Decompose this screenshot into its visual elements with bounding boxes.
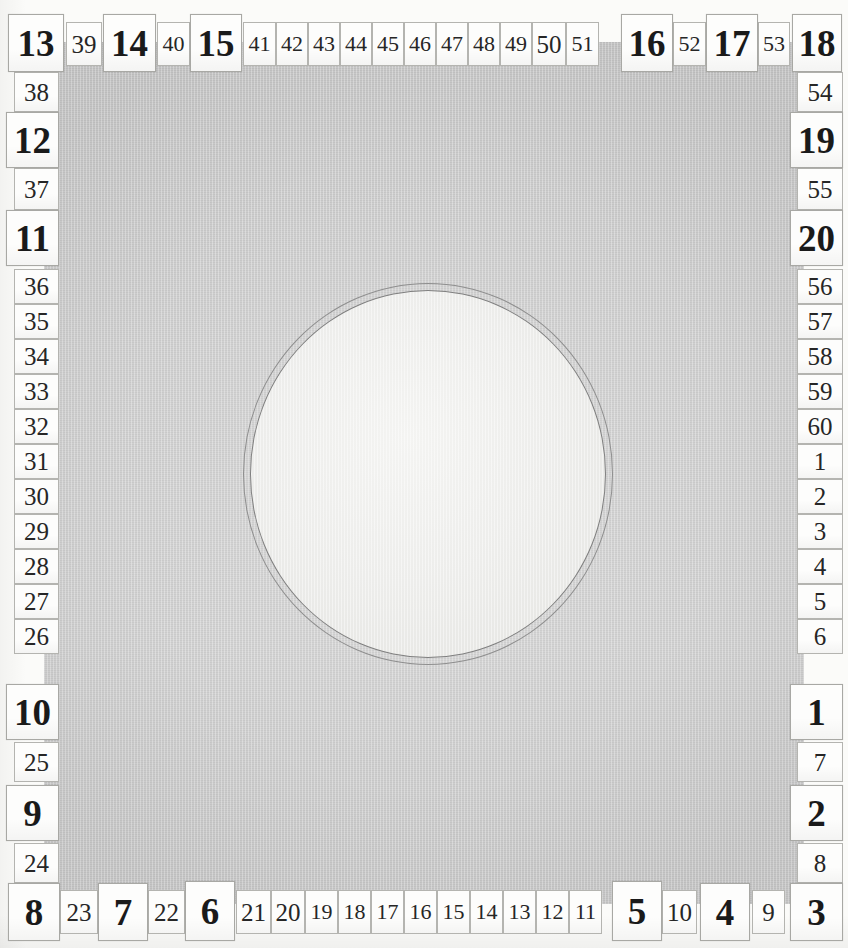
tick-label-minor-bottom-19: 19: [305, 890, 338, 934]
tick-label-major-bottom-6: 6: [185, 881, 235, 941]
tick-label-minor-right-57: 57: [797, 304, 843, 339]
tick-label-minor-top-48: 48: [468, 22, 500, 66]
tick-label-major-bottom-4: 4: [700, 883, 750, 941]
tick-label-minor-bottom-22: 22: [148, 890, 185, 934]
tick-label-minor-left-38: 38: [14, 72, 59, 112]
tick-label-major-right-20: 20: [790, 210, 843, 266]
tick-label-minor-top-43: 43: [308, 22, 340, 66]
tick-label-minor-left-30: 30: [14, 479, 59, 514]
tick-label-minor-top-51: 51: [566, 22, 599, 66]
scale-plate: 1339144015414243444546474849505116521753…: [0, 0, 848, 948]
tick-label-minor-left-36: 36: [14, 269, 59, 304]
tick-label-minor-top-47: 47: [436, 22, 468, 66]
tick-label-major-top-18: 18: [792, 14, 842, 72]
tick-label-minor-bottom-14: 14: [470, 890, 503, 934]
tick-label-minor-left-28: 28: [14, 549, 59, 584]
tick-label-minor-right-56: 56: [797, 269, 843, 304]
tick-label-major-top-13: 13: [8, 14, 64, 72]
tick-label-minor-right-59: 59: [797, 374, 843, 409]
tick-label-major-top-16: 16: [621, 14, 673, 72]
tick-label-minor-bottom-18: 18: [338, 890, 371, 934]
tick-label-minor-top-46: 46: [404, 22, 436, 66]
tick-label-major-right-3: 3: [790, 883, 843, 941]
tick-label-minor-top-41: 41: [243, 22, 276, 66]
tick-label-minor-bottom-12: 12: [536, 890, 569, 934]
tick-label-major-bottom-5: 5: [612, 881, 662, 941]
tick-label-minor-top-53: 53: [758, 22, 790, 66]
tick-label-major-right-2: 2: [790, 785, 843, 841]
tick-label-minor-left-31: 31: [14, 444, 59, 479]
tick-label-minor-bottom-20: 20: [271, 890, 305, 934]
tick-label-minor-bottom-16: 16: [404, 890, 437, 934]
tick-label-minor-right-1: 1: [797, 444, 843, 479]
tick-label-minor-top-40: 40: [157, 22, 190, 66]
tick-label-minor-right-54: 54: [797, 72, 843, 112]
tick-label-minor-bottom-11: 11: [569, 890, 602, 934]
tick-label-major-top-15: 15: [190, 14, 242, 72]
tick-label-minor-left-35: 35: [14, 304, 59, 339]
tick-label-minor-right-8: 8: [797, 843, 843, 883]
tick-label-major-right-19: 19: [790, 112, 843, 168]
tick-label-major-top-14: 14: [103, 14, 156, 72]
tick-label-minor-top-45: 45: [372, 22, 404, 66]
tick-label-major-top-17: 17: [706, 14, 758, 72]
tick-label-minor-bottom-17: 17: [371, 890, 404, 934]
tick-label-minor-top-50: 50: [532, 22, 566, 66]
tick-label-minor-left-37: 37: [14, 168, 59, 210]
tick-label-minor-right-55: 55: [797, 168, 843, 210]
tick-label-minor-top-49: 49: [500, 22, 532, 66]
tick-label-major-left-10: 10: [6, 684, 59, 740]
tick-label-minor-right-7: 7: [797, 742, 843, 782]
tick-label-minor-right-60: 60: [797, 409, 843, 444]
tick-label-minor-top-44: 44: [340, 22, 372, 66]
tick-label-minor-bottom-9: 9: [752, 890, 785, 934]
tick-label-minor-right-2: 2: [797, 479, 843, 514]
tick-label-minor-left-25: 25: [14, 742, 59, 782]
tick-label-major-bottom-7: 7: [98, 883, 148, 941]
tick-label-minor-top-42: 42: [276, 22, 308, 66]
tick-label-minor-left-34: 34: [14, 339, 59, 374]
tick-label-minor-bottom-10: 10: [662, 890, 697, 934]
tick-label-minor-left-33: 33: [14, 374, 59, 409]
tick-label-minor-left-29: 29: [14, 514, 59, 549]
tick-label-minor-right-4: 4: [797, 549, 843, 584]
tick-label-minor-bottom-23: 23: [60, 890, 98, 934]
tick-label-minor-bottom-13: 13: [503, 890, 536, 934]
tick-label-minor-top-52: 52: [673, 22, 706, 66]
tick-label-minor-bottom-21: 21: [236, 890, 271, 934]
tick-label-minor-left-27: 27: [14, 584, 59, 619]
tick-label-minor-bottom-15: 15: [437, 890, 470, 934]
tick-label-minor-right-58: 58: [797, 339, 843, 374]
tick-label-major-left-9: 9: [6, 785, 59, 841]
tick-label-major-left-11: 11: [6, 210, 59, 266]
tick-label-minor-right-5: 5: [797, 584, 843, 619]
tick-label-minor-left-32: 32: [14, 409, 59, 444]
tick-label-minor-left-26: 26: [14, 619, 59, 654]
tick-label-minor-right-3: 3: [797, 514, 843, 549]
tick-label-minor-left-24: 24: [14, 843, 59, 883]
tick-label-minor-right-6: 6: [797, 619, 843, 654]
tick-label-major-left-12: 12: [6, 112, 59, 168]
tick-label-major-right-1: 1: [790, 684, 843, 740]
dial-inner-ring: [250, 290, 606, 658]
tick-label-major-bottom-8: 8: [8, 883, 60, 941]
tick-label-minor-top-39: 39: [66, 22, 102, 66]
